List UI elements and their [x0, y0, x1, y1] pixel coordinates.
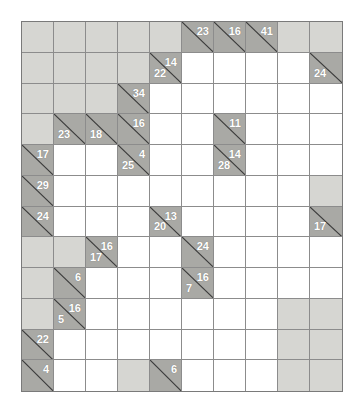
entry-cell[interactable]	[246, 176, 278, 207]
entry-value[interactable]	[246, 114, 277, 144]
entry-cell[interactable]	[246, 114, 278, 145]
entry-value[interactable]	[182, 299, 213, 329]
entry-cell[interactable]	[118, 237, 150, 268]
entry-value[interactable]	[54, 207, 85, 237]
entry-value[interactable]	[150, 145, 181, 175]
entry-value[interactable]	[182, 145, 213, 175]
entry-cell[interactable]	[278, 176, 310, 207]
entry-cell[interactable]	[246, 145, 278, 176]
entry-cell[interactable]	[86, 330, 118, 361]
entry-cell[interactable]	[278, 84, 310, 115]
entry-value[interactable]	[246, 84, 277, 114]
entry-cell[interactable]	[54, 360, 86, 391]
entry-value[interactable]	[118, 268, 149, 298]
entry-value[interactable]	[214, 299, 245, 329]
entry-value[interactable]	[118, 299, 149, 329]
entry-value[interactable]	[182, 176, 213, 206]
entry-cell[interactable]	[150, 145, 182, 176]
entry-cell[interactable]	[86, 207, 118, 238]
entry-value[interactable]	[246, 53, 277, 83]
entry-value[interactable]	[214, 53, 245, 83]
entry-cell[interactable]	[246, 268, 278, 299]
entry-value[interactable]	[150, 268, 181, 298]
entry-value[interactable]	[278, 53, 309, 83]
entry-value[interactable]	[182, 84, 213, 114]
entry-cell[interactable]	[214, 360, 246, 391]
entry-value[interactable]	[278, 145, 309, 175]
entry-cell[interactable]	[54, 207, 86, 238]
entry-value[interactable]	[182, 330, 213, 360]
entry-value[interactable]	[246, 360, 277, 391]
entry-cell[interactable]	[86, 360, 118, 391]
entry-value[interactable]	[150, 330, 181, 360]
entry-cell[interactable]	[182, 114, 214, 145]
entry-cell[interactable]	[246, 237, 278, 268]
entry-value[interactable]	[182, 360, 213, 391]
entry-value[interactable]	[150, 176, 181, 206]
entry-value[interactable]	[86, 299, 117, 329]
entry-cell[interactable]	[182, 207, 214, 238]
entry-value[interactable]	[86, 207, 117, 237]
entry-value[interactable]	[54, 330, 85, 360]
entry-value[interactable]	[86, 360, 117, 391]
entry-cell[interactable]	[118, 268, 150, 299]
entry-value[interactable]	[54, 176, 85, 206]
entry-cell[interactable]	[310, 114, 342, 145]
entry-value[interactable]	[278, 84, 309, 114]
entry-cell[interactable]	[310, 84, 342, 115]
entry-cell[interactable]	[246, 299, 278, 330]
entry-value[interactable]	[182, 53, 213, 83]
entry-cell[interactable]	[214, 268, 246, 299]
entry-value[interactable]	[278, 237, 309, 267]
entry-value[interactable]	[182, 207, 213, 237]
entry-value[interactable]	[54, 360, 85, 391]
entry-cell[interactable]	[246, 84, 278, 115]
entry-value[interactable]	[246, 299, 277, 329]
entry-value[interactable]	[150, 114, 181, 144]
entry-value[interactable]	[278, 207, 309, 237]
entry-cell[interactable]	[246, 207, 278, 238]
entry-cell[interactable]	[246, 53, 278, 84]
entry-cell[interactable]	[214, 176, 246, 207]
entry-cell[interactable]	[182, 53, 214, 84]
entry-value[interactable]	[118, 330, 149, 360]
entry-value[interactable]	[310, 268, 342, 298]
entry-cell[interactable]	[278, 207, 310, 238]
entry-cell[interactable]	[310, 268, 342, 299]
entry-cell[interactable]	[246, 330, 278, 361]
entry-cell[interactable]	[278, 237, 310, 268]
entry-value[interactable]	[278, 176, 309, 206]
entry-cell[interactable]	[214, 237, 246, 268]
entry-value[interactable]	[86, 268, 117, 298]
entry-cell[interactable]	[182, 360, 214, 391]
entry-cell[interactable]	[214, 84, 246, 115]
entry-value[interactable]	[246, 330, 277, 360]
entry-value[interactable]	[214, 84, 245, 114]
entry-cell[interactable]	[118, 330, 150, 361]
entry-cell[interactable]	[278, 114, 310, 145]
entry-value[interactable]	[246, 237, 277, 267]
entry-value[interactable]	[246, 176, 277, 206]
entry-value[interactable]	[214, 360, 245, 391]
entry-value[interactable]	[310, 237, 342, 267]
entry-cell[interactable]	[118, 299, 150, 330]
entry-cell[interactable]	[182, 299, 214, 330]
entry-value[interactable]	[118, 207, 149, 237]
entry-cell[interactable]	[118, 176, 150, 207]
entry-cell[interactable]	[86, 145, 118, 176]
entry-cell[interactable]	[214, 53, 246, 84]
entry-cell[interactable]	[86, 268, 118, 299]
entry-value[interactable]	[118, 237, 149, 267]
kakuro-grid[interactable]: 2316411422243423181611174251428292413201…	[21, 21, 343, 392]
entry-value[interactable]	[246, 268, 277, 298]
entry-value[interactable]	[182, 114, 213, 144]
entry-cell[interactable]	[118, 207, 150, 238]
entry-cell[interactable]	[150, 176, 182, 207]
entry-cell[interactable]	[214, 207, 246, 238]
entry-cell[interactable]	[310, 237, 342, 268]
entry-cell[interactable]	[182, 176, 214, 207]
entry-value[interactable]	[86, 330, 117, 360]
entry-value[interactable]	[214, 268, 245, 298]
entry-value[interactable]	[278, 114, 309, 144]
entry-cell[interactable]	[150, 268, 182, 299]
